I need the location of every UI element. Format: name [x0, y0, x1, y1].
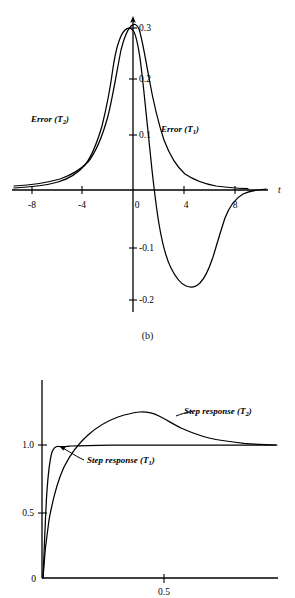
step-t2-curve [43, 412, 277, 578]
step-xlabel-0.5: 0.5 [158, 587, 170, 597]
step-response-svg: 1.0 0.5 0 0.5 Step response (T2) Step re… [0, 350, 295, 598]
error-t2-annotation: Error (T2) [30, 114, 69, 125]
error-t1-annotation-text: Error (T [160, 124, 193, 134]
error-xlabel-8: 8 [233, 200, 238, 210]
error-xlabel--8: -8 [28, 200, 36, 210]
error-ylabel-0.3: 0.3 [139, 23, 151, 33]
step-ylabel-0: 0 [31, 574, 36, 584]
step-ylabel-1.0: 1.0 [22, 440, 34, 450]
step-t2-annotation: Step response (T2) [184, 406, 252, 417]
step-t1-annotation-text: Step response (T [87, 455, 149, 465]
step-response-panel: 1.0 0.5 0 0.5 Step response (T2) Step re… [0, 350, 295, 598]
error-xlabel-4: 4 [184, 200, 189, 210]
error-ylabel-0.2: 0.2 [139, 74, 151, 84]
error-t1-annotation: Error (T1) [160, 124, 199, 135]
step-t1-curve [43, 445, 276, 578]
step-t2-annotation-close: ) [248, 406, 252, 416]
error-plot-panel: 0.3 0.2 0.1 -0.1 -0.2 -8 -4 0 4 8 t Erro… [0, 0, 295, 320]
step-t1-annotation: Step response (T1) [87, 455, 155, 466]
error-t2-annotation-close: ) [65, 114, 69, 124]
error-plot-svg: 0.3 0.2 0.1 -0.1 -0.2 -8 -4 0 4 8 t Erro… [0, 0, 295, 320]
error-t1-curve [14, 24, 248, 188]
step-t1-annotation-close: ) [151, 455, 155, 465]
step-t2-annotation-text: Step response (T [184, 406, 246, 416]
error-xlabel-0: 0 [135, 200, 140, 210]
step-t1-leader-arrow [60, 446, 67, 450]
error-t2-annotation-text: Error (T [30, 114, 63, 124]
step-t1-leader-tail [78, 457, 84, 460]
error-ylabel--0.2: -0.2 [139, 295, 154, 305]
error-t1-annotation-close: ) [195, 124, 199, 134]
figure-caption-b: (b) [0, 330, 295, 341]
step-ylabel-0.5: 0.5 [22, 508, 34, 518]
error-ylabel-0.1: 0.1 [139, 130, 151, 140]
error-x-axis-name: t [278, 185, 281, 195]
figure-container: 0.3 0.2 0.1 -0.1 -0.2 -8 -4 0 4 8 t Erro… [0, 0, 295, 598]
error-ylabel--0.1: -0.1 [139, 243, 154, 253]
error-xlabel--4: -4 [78, 200, 86, 210]
